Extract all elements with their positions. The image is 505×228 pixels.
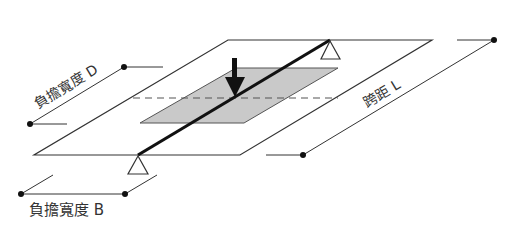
- label-span-l: 跨距 L: [360, 76, 403, 111]
- structural-diagram: 負擔寬度 D 跨距 L 負擔寬度 B: [0, 0, 505, 228]
- label-width-b: 負擔寬度 B: [29, 201, 104, 219]
- label-width-d: 負擔寬度 D: [31, 61, 100, 111]
- bottom-support-icon: [128, 156, 148, 174]
- dimension-b: [18, 175, 157, 197]
